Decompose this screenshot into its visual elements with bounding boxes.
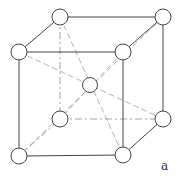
atom-bottom-back-right xyxy=(155,111,171,127)
figure-label: a xyxy=(161,159,168,173)
bcc-cube-diagram xyxy=(0,0,181,179)
atom-top-front-right xyxy=(115,44,131,60)
atom-bottom-front-left xyxy=(11,148,27,164)
atom-top-back-left xyxy=(52,9,68,25)
atom-bottom-front-right xyxy=(115,147,131,163)
atom-bottom-back-left xyxy=(52,111,68,127)
atom-body-center xyxy=(83,78,98,93)
atom-top-front-left xyxy=(11,44,27,60)
edge-bottom-front xyxy=(19,155,123,156)
atom-top-back-right xyxy=(155,9,171,25)
